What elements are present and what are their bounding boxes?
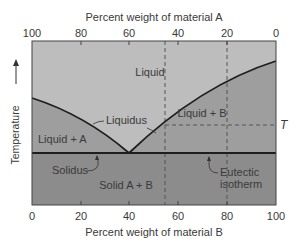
- label-solid-ab: Solid A + B: [99, 179, 153, 191]
- label-isotherm: isotherm: [220, 178, 262, 190]
- bottom-tick-label: 0: [29, 210, 35, 222]
- label-eutectic: Eutectic: [220, 166, 260, 178]
- top-tick-label: 20: [221, 27, 233, 39]
- bottom-tick-label: 80: [221, 210, 233, 222]
- arrow-up-icon: [13, 59, 19, 66]
- bottom-tick-label: 20: [75, 210, 87, 222]
- bottom-tick-label: 40: [123, 210, 135, 222]
- phase-diagram: Percent weight of material A 100 80 60 4…: [0, 0, 300, 246]
- top-axis-title: Percent weight of material A: [86, 11, 224, 23]
- bottom-tick-label: 60: [172, 210, 184, 222]
- y-axis-title: Temperature: [9, 105, 21, 164]
- label-liquidus: Liquidus: [106, 114, 147, 126]
- top-tick-label: 60: [123, 27, 135, 39]
- label-liquid: Liquid: [135, 66, 164, 78]
- top-tick-label: 80: [75, 27, 87, 39]
- label-solidus: Solidus: [52, 164, 89, 176]
- label-liquid-b: Liquid + B: [177, 107, 226, 119]
- top-tick-label: 40: [172, 27, 184, 39]
- top-tick-label: 0: [273, 27, 279, 39]
- bottom-tick-label: 100: [267, 210, 285, 222]
- label-T: T: [280, 118, 289, 132]
- top-tick-label: 100: [23, 27, 41, 39]
- label-liquid-a: Liquid + A: [38, 133, 87, 145]
- bottom-axis-title: Percent weight of material B: [85, 226, 223, 238]
